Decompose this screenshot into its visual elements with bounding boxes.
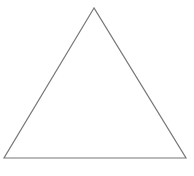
triangle-diagram: [0, 0, 194, 176]
diagram-canvas: [0, 0, 194, 176]
triangle-shape: [4, 8, 186, 158]
